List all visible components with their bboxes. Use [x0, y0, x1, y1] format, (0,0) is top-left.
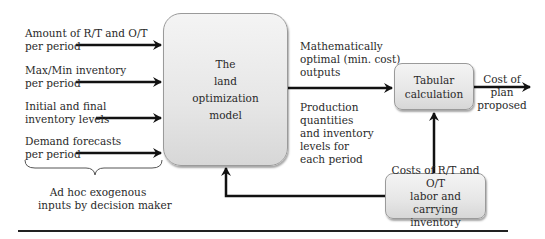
input-label-4: Demand forecasts per period: [25, 135, 121, 161]
costs-line2: labor and carrying: [386, 190, 485, 216]
upper-output-line1: Mathematically: [300, 40, 400, 53]
input-label-2: Max/Min inventory per period: [25, 64, 126, 90]
final-output-label: Cost of plan proposed: [476, 73, 528, 112]
model-line1: The: [192, 56, 258, 73]
lower-output-line1: Production: [300, 101, 374, 114]
costs-line3: inventory: [386, 216, 485, 229]
lower-output-line2: quantities: [300, 114, 374, 127]
input-3-line2: inventory levels: [25, 113, 109, 126]
upper-output-label: Mathematically optimal (min. cost) outpu…: [300, 40, 400, 79]
upper-output-line2: optimal (min. cost): [300, 53, 400, 66]
curly-brace: [25, 160, 162, 175]
input-4-line2: per period: [25, 148, 121, 161]
final-output-line1: Cost of: [476, 73, 528, 86]
brace-label-line1: Ad hoc exogenous: [38, 186, 158, 199]
model-line2: land: [192, 73, 258, 90]
brace-label-line2: inputs by decision maker: [38, 199, 158, 212]
optimization-model-box: The land optimization model: [163, 13, 288, 166]
tabular-line1: Tabular: [405, 73, 463, 87]
feedback-arrow: [226, 168, 385, 196]
input-3-line1: Initial and final: [25, 100, 109, 113]
lower-output-line3: and inventory: [300, 127, 374, 140]
tabular-calculation-box: Tabular calculation: [394, 63, 474, 110]
upper-output-line3: outputs: [300, 66, 400, 79]
input-2-line2: per period: [25, 77, 126, 90]
input-1-line1: Amount of R/T and O/T: [25, 27, 148, 40]
lower-output-line5: each period: [300, 153, 374, 166]
input-label-3: Initial and final inventory levels: [25, 100, 109, 126]
bottom-rule: [18, 230, 508, 232]
final-output-line3: proposed: [476, 99, 528, 112]
model-line4: model: [192, 107, 258, 124]
tabular-line2: calculation: [405, 87, 463, 101]
input-1-line2: per period: [25, 40, 148, 53]
input-label-1: Amount of R/T and O/T per period: [25, 27, 148, 53]
input-4-line1: Demand forecasts: [25, 135, 121, 148]
lower-output-label: Production quantities and inventory leve…: [300, 101, 374, 166]
costs-box: Costs of R/T and O/T labor and carrying …: [385, 173, 486, 219]
lower-output-line4: levels for: [300, 140, 374, 153]
brace-label: Ad hoc exogenous inputs by decision make…: [38, 186, 158, 212]
model-line3: optimization: [192, 90, 258, 107]
input-2-line1: Max/Min inventory: [25, 64, 126, 77]
final-output-line2: plan: [476, 86, 528, 99]
costs-line1: Costs of R/T and O/T: [386, 164, 485, 190]
